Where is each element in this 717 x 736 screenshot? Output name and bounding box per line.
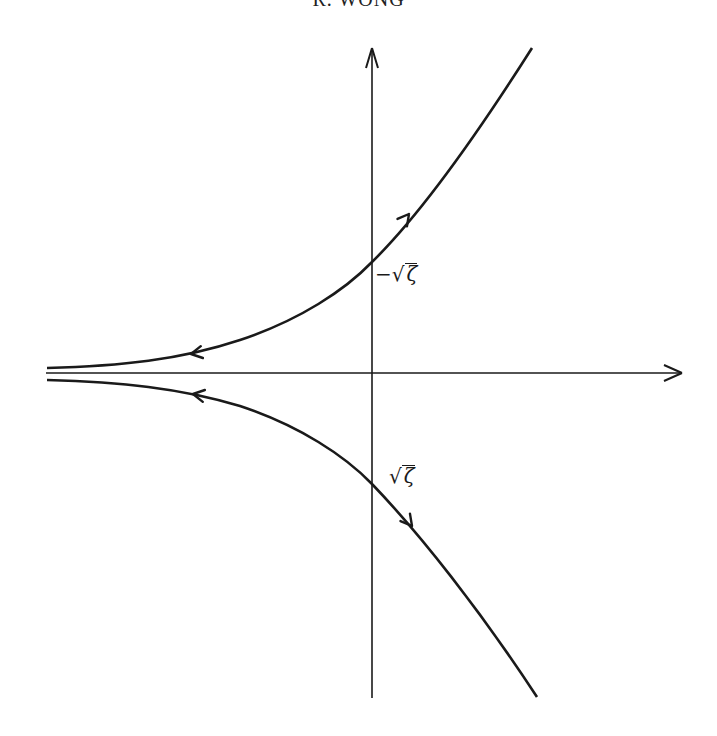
- contour-figure: [0, 0, 717, 736]
- horizontal-axis: [46, 365, 682, 381]
- radicand: ζ: [402, 465, 415, 486]
- sqrt-icon: √: [392, 262, 405, 286]
- minus-sign: −: [375, 262, 392, 286]
- lower-branch-curve: [47, 380, 537, 697]
- upper-intercept-label: −√ζ: [375, 262, 417, 286]
- radicand: ζ: [405, 263, 418, 284]
- lower-intercept-label: √ζ: [389, 464, 415, 488]
- upper-branch-curve: [47, 48, 532, 368]
- sqrt-icon: √: [389, 464, 402, 488]
